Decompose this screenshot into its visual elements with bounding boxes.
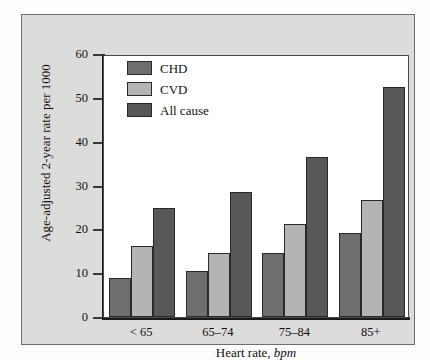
- legend-item: All cause: [127, 100, 247, 120]
- x-axis-tick-label: < 65: [103, 325, 180, 340]
- y-axis-tick: [93, 229, 102, 231]
- bar: [153, 208, 175, 317]
- legend-label-chd: CHD: [160, 62, 187, 75]
- y-axis-tick: [93, 54, 102, 56]
- legend-item: CHD: [127, 58, 247, 78]
- y-axis-tick: [93, 98, 102, 100]
- y-axis-tick-label: 40: [60, 136, 88, 149]
- bar: [230, 192, 252, 317]
- bar: [383, 87, 405, 317]
- y-axis-tick: [93, 317, 102, 319]
- x-axis-tick-label: 65–74: [180, 325, 257, 340]
- legend-swatch-cvd: [127, 82, 152, 96]
- y-axis-tick-label: 60: [60, 48, 88, 61]
- x-axis-title-main: Heart rate,: [216, 345, 271, 360]
- y-axis-title: Age-adjusted 2-year rate per 1000: [38, 53, 54, 253]
- chart-panel: Age-adjusted 2-year rate per 1000 010203…: [21, 14, 415, 345]
- y-axis-tick-label: 20: [60, 223, 88, 236]
- x-axis-tick-label: 75–84: [256, 325, 333, 340]
- bar: [208, 253, 230, 317]
- bar: [131, 246, 153, 317]
- bar: [339, 233, 361, 317]
- bar: [361, 200, 383, 317]
- bar: [284, 224, 306, 317]
- bar: [186, 271, 208, 317]
- plot-area: CHD CVD All cause: [103, 55, 409, 318]
- y-axis-tick: [93, 273, 102, 275]
- y-axis-tick: [93, 142, 102, 144]
- x-axis-tick-label: 85+: [333, 325, 410, 340]
- y-axis-tick-label: 0: [60, 311, 88, 324]
- y-axis-tick-label: 30: [60, 180, 88, 193]
- legend-label-cvd: CVD: [160, 83, 187, 96]
- chart-legend: CHD CVD All cause: [127, 58, 247, 121]
- bar: [306, 157, 328, 317]
- x-axis-title: Heart rate, bpm: [103, 345, 409, 360]
- y-axis-tick-label: 50: [60, 92, 88, 105]
- legend-swatch-all-cause: [127, 103, 152, 117]
- legend-swatch-chd: [127, 61, 152, 75]
- bar: [262, 253, 284, 317]
- y-axis-tick: [93, 186, 102, 188]
- legend-item: CVD: [127, 79, 247, 99]
- x-axis-title-units: bpm: [274, 345, 296, 360]
- y-axis-tick-label: 10: [60, 267, 88, 280]
- figure-canvas: Age-adjusted 2-year rate per 1000 010203…: [0, 0, 430, 360]
- bar: [109, 278, 131, 317]
- legend-label-all-cause: All cause: [160, 104, 209, 117]
